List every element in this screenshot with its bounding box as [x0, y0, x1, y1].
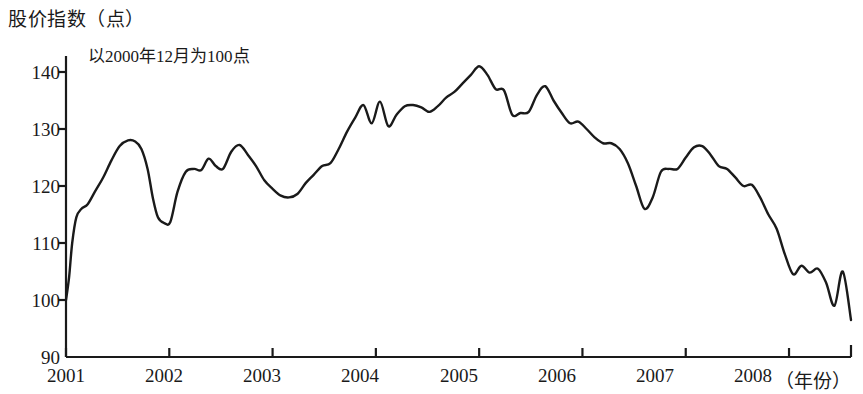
- axes-group: [66, 56, 851, 357]
- series-line-stock-price-index: [66, 66, 851, 320]
- stock-price-index-chart: 股价指数（点） 以2000年12月为100点 （年份） 140 130 120 …: [0, 0, 863, 394]
- y-tick-marks: [58, 72, 66, 300]
- plot-area: [0, 0, 863, 394]
- x-tick-marks: [66, 348, 789, 357]
